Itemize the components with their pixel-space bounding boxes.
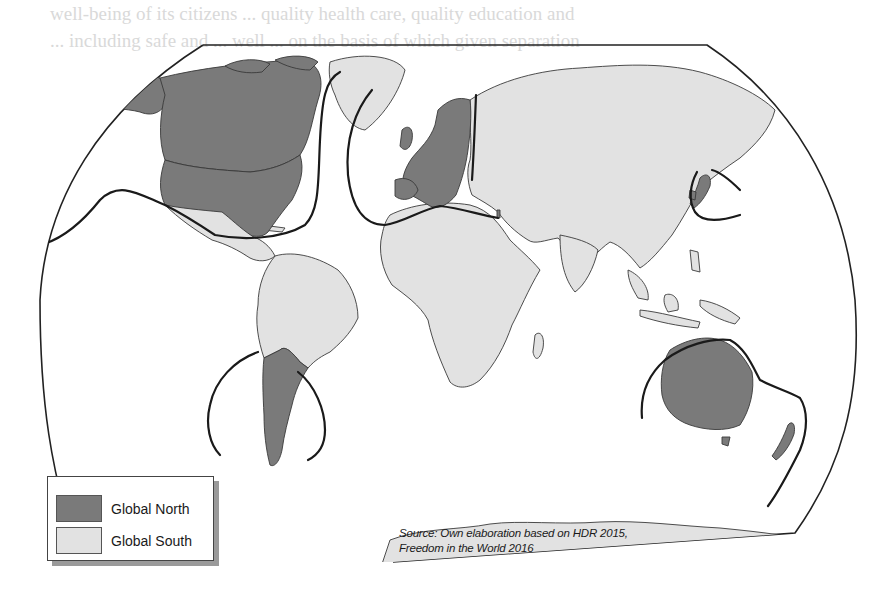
global-north-swatch bbox=[56, 495, 102, 522]
legend-item-global-north: Global North bbox=[56, 495, 190, 522]
legend-label: Global North bbox=[111, 501, 190, 517]
legend-label: Global South bbox=[111, 533, 192, 549]
legend-item-global-south: Global South bbox=[56, 527, 192, 554]
global-south-swatch bbox=[56, 527, 102, 554]
source-line-1: Source: Own elaboration based on HDR 201… bbox=[399, 526, 628, 541]
source-caption: Source: Own elaboration based on HDR 201… bbox=[399, 526, 628, 556]
map-legend: Global North Global South bbox=[47, 476, 214, 561]
source-line-2: Freedom in the World 2016 bbox=[399, 541, 628, 556]
